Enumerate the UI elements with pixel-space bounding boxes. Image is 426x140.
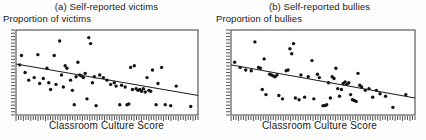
- y-axis-tick-marks: [11, 30, 15, 115]
- plot-area: [16, 30, 198, 115]
- panel-self-reported-victims: (a) Self-reported victims Proportion of …: [0, 0, 213, 140]
- x-axis-label: Classroom Culture Score: [0, 120, 213, 132]
- panel-title: (b) Self-reported bullies: [213, 1, 426, 12]
- y-axis-label: Proportion of bullies: [216, 13, 302, 24]
- panel-self-reported-bullies: (b) Self-reported bullies Proportion of …: [213, 0, 426, 140]
- x-axis-label: Classroom Culture Score: [213, 120, 426, 132]
- panel-title: (a) Self-reported victims: [0, 1, 213, 12]
- y-axis-tick-marks: [226, 30, 230, 115]
- figure-container: (a) Self-reported victims Proportion of …: [0, 0, 426, 140]
- plot-area: [231, 30, 415, 115]
- plot-frame: [231, 30, 415, 115]
- plot-frame: [16, 30, 198, 115]
- scatter-svg: [217, 28, 426, 133]
- scatter-svg: [2, 28, 212, 133]
- y-axis-label: Proportion of victims: [3, 13, 91, 24]
